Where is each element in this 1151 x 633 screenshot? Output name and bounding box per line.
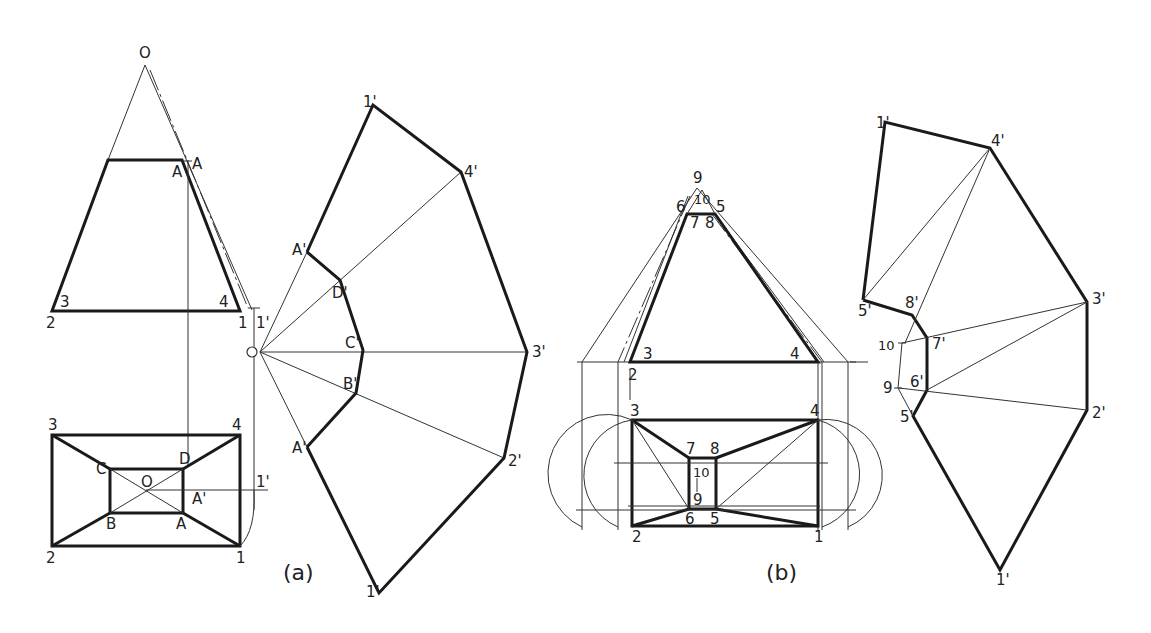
label-2: 2 (46, 314, 56, 332)
label-b-5: 5 (716, 198, 726, 216)
label-3: 3 (60, 293, 70, 311)
label-bdev-1-prime-bottom: 1' (996, 571, 1010, 589)
label-bt-8: 8 (710, 440, 720, 458)
label-1-prime: 1' (256, 314, 270, 332)
label-bt-2: 2 (632, 528, 642, 546)
label-bdev-5-prime-top: 5' (858, 302, 872, 320)
label-dev-d-prime: D' (332, 284, 348, 302)
panel-b: 9 10 6 5 7 8 3 4 2 (548, 114, 1106, 589)
label-bdev-6-prime: 6' (910, 373, 924, 391)
label-d: D (179, 450, 191, 468)
label-bdev-8-prime: 8' (905, 294, 919, 312)
label-b-4: 4 (790, 345, 800, 363)
label-top-3: 3 (48, 416, 58, 434)
label-c: C (96, 460, 106, 478)
caption-b: (b) (766, 560, 797, 585)
label-bdev-10: 10 (878, 338, 895, 353)
label-bdev-9: 9 (883, 379, 893, 397)
label-bdev-1-prime-top: 1' (876, 114, 890, 132)
label-bt-4: 4 (810, 402, 820, 420)
label-b-2: 2 (628, 366, 638, 384)
label-b-9: 9 (693, 169, 703, 187)
panel-b-top-view: 3 4 2 1 7 8 6 5 10 9 (548, 402, 882, 546)
label-bt-1: 1 (814, 528, 824, 546)
label-bt-5: 5 (710, 510, 720, 528)
label-bdev-5-prime-bottom: 5' (900, 408, 914, 426)
label-dev-1-prime-top: 1' (363, 93, 377, 111)
label-b-8: 8 (705, 214, 715, 232)
diagram-canvas: O A A 2 3 4 1 1' 3 4 2 1 C D B (0, 0, 1151, 633)
label-top-1: 1 (236, 549, 246, 567)
label-a-prime: A' (192, 490, 206, 508)
label-bt-6: 6 (685, 510, 695, 528)
label-1: 1 (238, 314, 248, 332)
label-apex-o: O (139, 44, 151, 62)
panel-b-development: 1' 4' 3' 2' 1' 5' 8' 7' 6' 5' 10 9 (850, 114, 1106, 589)
label-4: 4 (219, 293, 229, 311)
label-top-4: 4 (232, 416, 242, 434)
label-bt-9: 9 (693, 491, 703, 509)
label-bt-7: 7 (686, 440, 696, 458)
label-b-10: 10 (694, 192, 711, 207)
label-top-1-prime: 1' (256, 473, 270, 491)
label-dev-c-prime: C' (345, 334, 360, 352)
label-bt-3: 3 (630, 402, 640, 420)
label-b-7: 7 (690, 214, 700, 232)
label-bt-10: 10 (693, 465, 710, 480)
label-center-o: O (141, 473, 153, 491)
label-dev-1-prime-bottom: 1' (366, 583, 380, 601)
label-bdev-2-prime: 2' (1092, 404, 1106, 422)
label-b-6: 6 (676, 198, 686, 216)
caption-a: (a) (283, 560, 314, 585)
label-dev-3-prime: 3' (532, 343, 546, 361)
label-a-inner: A (172, 163, 183, 181)
label-dev-a-prime-bottom: A' (292, 439, 306, 457)
label-dev-2-prime: 2' (508, 452, 522, 470)
label-dev-4-prime: 4' (464, 163, 478, 181)
panel-a-development: 1' 4' 3' 2' 1' A' D' C' B' A' (247, 93, 546, 601)
panel-a-front-view: O A A 2 3 4 1 1' (46, 44, 270, 510)
panel-a-top-view: 3 4 2 1 C D B A O A' 1' (46, 416, 270, 567)
label-top-2: 2 (46, 549, 56, 567)
label-dev-b-prime: B' (343, 375, 357, 393)
label-b-3: 3 (643, 345, 653, 363)
panel-a: O A A 2 3 4 1 1' 3 4 2 1 C D B (46, 44, 546, 601)
label-a-outer: A (192, 155, 203, 173)
label-b: B (106, 515, 116, 533)
label-bdev-7-prime: 7' (932, 335, 946, 353)
label-dev-a-prime-top: A' (292, 241, 306, 259)
label-a: A (176, 515, 187, 533)
label-bdev-3-prime: 3' (1092, 290, 1106, 308)
label-bdev-4-prime: 4' (991, 132, 1005, 150)
